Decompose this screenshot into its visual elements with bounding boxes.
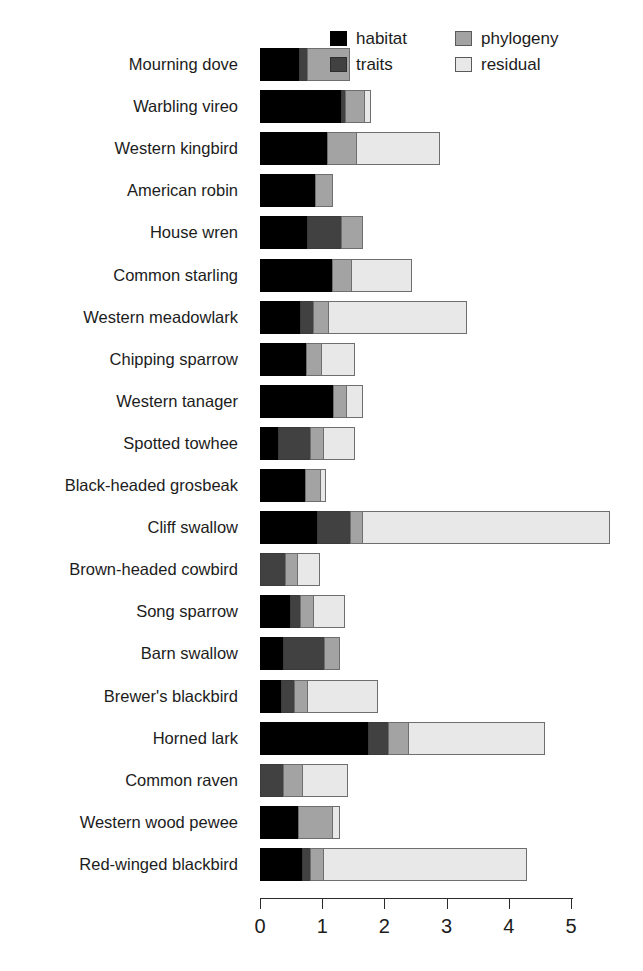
bar-segment-habitat — [260, 216, 307, 249]
bar-segment-phylogeny — [345, 90, 364, 123]
bar-segment-traits — [278, 427, 310, 460]
x-axis-tick — [260, 898, 261, 909]
bar-row — [260, 637, 340, 670]
x-axis-tick — [384, 898, 385, 909]
x-axis-tick — [447, 898, 448, 909]
y-axis-label: Common raven — [0, 770, 238, 790]
bar-segment-phylogeny — [313, 301, 328, 334]
bar-row — [260, 90, 371, 123]
bar-segment-traits — [290, 595, 300, 628]
bar-row — [260, 174, 333, 207]
bar-segment-phylogeny — [300, 595, 313, 628]
bar-row — [260, 427, 355, 460]
bar-segment-traits — [281, 680, 294, 713]
bar-row — [260, 806, 340, 839]
legend-swatch-habitat — [330, 31, 347, 46]
bar-segment-habitat — [260, 848, 302, 881]
bar-segment-phylogeny — [310, 848, 323, 881]
bar-segment-habitat — [260, 90, 341, 123]
bar-segment-traits — [368, 722, 388, 755]
x-axis-tick — [571, 898, 572, 909]
legend: habitattraitsphylogenyresidual — [330, 28, 580, 80]
bar-segment-habitat — [260, 680, 281, 713]
bar-segment-habitat — [260, 427, 278, 460]
y-axis-label: American robin — [0, 180, 238, 200]
bar-segment-habitat — [260, 469, 305, 502]
y-axis-label: House wren — [0, 222, 238, 242]
y-axis-category-labels: Mourning doveWarbling vireoWestern kingb… — [0, 38, 238, 880]
x-axis-tick-label: 2 — [364, 914, 404, 938]
bar-row — [260, 764, 348, 797]
bar-row — [260, 132, 440, 165]
x-axis-tick-label: 0 — [240, 914, 280, 938]
bar-row — [260, 595, 345, 628]
y-axis-label: Red-winged blackbird — [0, 854, 238, 874]
bar-row — [260, 553, 320, 586]
y-axis-label: Black-headed grosbeak — [0, 475, 238, 495]
bar-segment-phylogeny — [315, 174, 333, 207]
y-axis-label: Western kingbird — [0, 138, 238, 158]
bar-segment-residual — [302, 764, 348, 797]
legend-label: phylogeny — [481, 28, 559, 49]
bar-segment-phylogeny — [324, 637, 340, 670]
legend-label: habitat — [356, 28, 407, 49]
bar-row — [260, 511, 610, 544]
legend-swatch-residual — [455, 57, 472, 72]
bar-segment-residual — [323, 427, 355, 460]
bar-segment-residual — [320, 469, 326, 502]
bar-segment-phylogeny — [327, 132, 356, 165]
legend-label: residual — [481, 54, 541, 75]
y-axis-label: Western wood pewee — [0, 812, 238, 832]
bar-segment-phylogeny — [310, 427, 323, 460]
bar-segment-habitat — [260, 595, 290, 628]
bar-segment-traits — [302, 848, 310, 881]
bar-segment-phylogeny — [285, 553, 297, 586]
bar-segment-residual — [408, 722, 545, 755]
bar-segment-residual — [364, 90, 371, 123]
y-axis-label: Barn swallow — [0, 643, 238, 663]
bar-segment-traits — [299, 48, 307, 81]
bar-segment-residual — [307, 680, 378, 713]
bar-row — [260, 722, 545, 755]
plot-area — [260, 38, 643, 880]
bar-row — [260, 680, 378, 713]
y-axis-label: Warbling vireo — [0, 96, 238, 116]
bar-segment-habitat — [260, 132, 327, 165]
bar-segment-traits — [317, 511, 350, 544]
bar-segment-residual — [321, 343, 355, 376]
bar-segment-phylogeny — [306, 343, 321, 376]
bar-segment-traits — [260, 553, 285, 586]
bar-segment-habitat — [260, 385, 333, 418]
bar-segment-residual — [332, 806, 340, 839]
bar-segment-residual — [313, 595, 345, 628]
y-axis-label: Western meadowlark — [0, 307, 238, 327]
bar-segment-habitat — [260, 511, 317, 544]
x-axis — [260, 898, 573, 899]
bar-row — [260, 259, 412, 292]
x-axis-tick-label: 4 — [489, 914, 529, 938]
bar-segment-habitat — [260, 637, 283, 670]
x-axis-tick-label: 3 — [427, 914, 467, 938]
bar-segment-phylogeny — [332, 259, 351, 292]
bar-segment-residual — [346, 385, 362, 418]
bar-segment-habitat — [260, 722, 368, 755]
legend-swatch-phylogeny — [455, 31, 472, 46]
bar-segment-residual — [351, 259, 412, 292]
x-axis-tick — [509, 898, 510, 909]
y-axis-label: Western tanager — [0, 391, 238, 411]
bar-segment-traits — [307, 216, 341, 249]
y-axis-label: Chipping sparrow — [0, 349, 238, 369]
y-axis-label: Cliff swallow — [0, 517, 238, 537]
bar-segment-phylogeny — [294, 680, 307, 713]
y-axis-label: Brewer's blackbird — [0, 686, 238, 706]
legend-label: traits — [356, 54, 393, 75]
y-axis-label: Song sparrow — [0, 601, 238, 621]
bar-row — [260, 343, 355, 376]
bar-segment-phylogeny — [333, 385, 347, 418]
y-axis-label: Spotted towhee — [0, 433, 238, 453]
bar-row — [260, 469, 326, 502]
bar-row — [260, 385, 363, 418]
bar-segment-traits — [260, 764, 283, 797]
x-axis-tick — [322, 898, 323, 909]
bar-segment-traits — [283, 637, 324, 670]
